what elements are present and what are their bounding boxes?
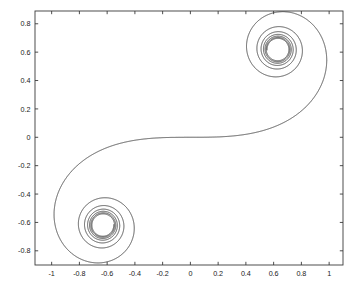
y-tick-label: 0 (27, 133, 31, 142)
tick-labels: -1-0.8-0.6-0.4-0.200.20.40.60.810.80.60.… (18, 19, 331, 277)
x-tick-label: -0.6 (101, 269, 113, 278)
y-tick-label: 0.8 (21, 19, 31, 28)
y-tick-label: 0.4 (21, 76, 31, 85)
y-tick-label: -0.4 (18, 190, 30, 199)
plot-border (35, 11, 343, 265)
x-tick-label: 0 (188, 269, 192, 278)
x-tick-label: -0.8 (73, 269, 85, 278)
y-tick-label: -0.6 (18, 218, 30, 227)
spiral-path (54, 12, 327, 263)
axes (35, 11, 343, 265)
x-tick-label: -0.4 (129, 269, 141, 278)
figure-canvas: -1-0.8-0.6-0.4-0.200.20.40.60.810.80.60.… (0, 0, 362, 294)
x-tick-label: 0.2 (213, 269, 223, 278)
plot-area: -1-0.8-0.6-0.4-0.200.20.40.60.810.80.60.… (0, 0, 362, 294)
cornu-spiral-curve (54, 12, 327, 263)
x-tick-label: 1 (327, 269, 331, 278)
x-tick-label: -1 (48, 269, 54, 278)
x-tick-label: 0.4 (241, 269, 251, 278)
y-tick-label: -0.8 (18, 246, 30, 255)
y-tick-label: 0.6 (21, 48, 31, 57)
y-tick-label: -0.2 (18, 161, 30, 170)
y-tick-label: 0.2 (21, 105, 31, 114)
x-tick-label: 0.8 (296, 269, 306, 278)
x-tick-label: 0.6 (269, 269, 279, 278)
x-tick-label: -0.2 (156, 269, 168, 278)
